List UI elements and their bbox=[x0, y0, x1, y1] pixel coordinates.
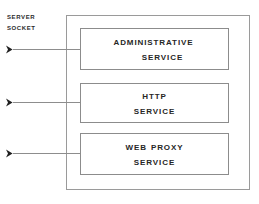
service-box-administrative: Administrative Service bbox=[80, 28, 229, 70]
service-label-line2: Service bbox=[81, 154, 228, 169]
connector-line-web-proxy bbox=[13, 153, 81, 154]
arrowhead-right-icon bbox=[5, 98, 14, 107]
service-label-line1: HTTP bbox=[81, 88, 228, 103]
service-label-line1: Web Proxy bbox=[81, 139, 228, 154]
service-box-web-proxy: Web Proxy Service bbox=[80, 133, 229, 175]
service-label-line2: Service bbox=[81, 103, 228, 118]
arrowhead-right-icon bbox=[5, 149, 14, 158]
arrowhead-right-icon bbox=[5, 45, 14, 54]
connector-line-http bbox=[13, 102, 81, 103]
server-socket-label-line1: Server bbox=[7, 11, 65, 22]
server-socket-diagram: Server Socket Administrative Service HTT… bbox=[0, 0, 259, 204]
service-box-http: HTTP Service bbox=[80, 83, 229, 123]
connector-line-administrative bbox=[13, 49, 81, 50]
server-socket-label-line2: Socket bbox=[7, 22, 65, 33]
service-label-line1: Administrative bbox=[81, 34, 228, 49]
server-socket-label: Server Socket bbox=[7, 11, 65, 33]
service-label-line2: Service bbox=[81, 49, 228, 64]
